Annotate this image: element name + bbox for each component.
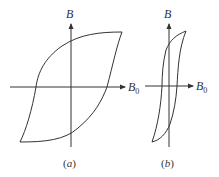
panel-a: B B0 (a): [10, 7, 139, 170]
x-axis-label-a: B0: [128, 80, 139, 96]
panel-b: B B0 (b): [145, 7, 207, 170]
hysteresis-figure: B B0 (a) B B0 (b): [0, 0, 219, 177]
caption-a: (a): [63, 157, 76, 170]
x-axis-label-b: B0: [196, 79, 207, 95]
y-axis-label-b: B: [164, 7, 172, 21]
y-axis-label-a: B: [66, 7, 74, 21]
caption-b: (b): [161, 157, 174, 170]
